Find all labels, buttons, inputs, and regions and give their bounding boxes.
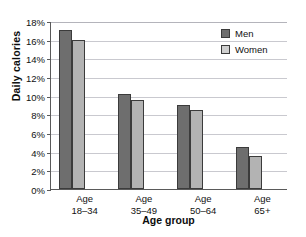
legend-label: Men	[235, 28, 253, 39]
y-axis-tick-label: 14%	[26, 54, 45, 65]
legend-label: Women	[235, 44, 268, 55]
bar-women-4	[249, 156, 262, 189]
x-axis-tick-label: Age18–34	[55, 193, 115, 216]
bar-men-2	[118, 94, 131, 189]
bar-group	[118, 22, 144, 189]
y-axis-tick-mark	[47, 190, 51, 191]
y-axis-tick-label: 0%	[31, 185, 45, 196]
bar-men-3	[177, 105, 190, 189]
y-axis-tick-label: 4%	[31, 147, 45, 158]
legend-swatch-icon	[221, 45, 230, 54]
y-axis-tick-label: 10%	[26, 91, 45, 102]
y-axis-tick-label: 12%	[26, 73, 45, 84]
x-axis-tick-label: Age35–49	[114, 193, 174, 216]
legend: MenWomen	[221, 26, 268, 58]
bar-women-3	[190, 110, 203, 189]
y-axis-tick-label: 16%	[26, 35, 45, 46]
y-axis-tick-label: 2%	[31, 166, 45, 177]
y-axis-title: Daily calories	[10, 6, 22, 126]
y-axis-tick-label: 8%	[31, 110, 45, 121]
bar-group	[177, 22, 203, 189]
cut-off-text-artifact	[0, 0, 306, 9]
legend-item-men[interactable]: Men	[221, 26, 268, 40]
bar-men-4	[236, 147, 249, 189]
bar-women-1	[72, 40, 85, 189]
bar-women-2	[131, 100, 144, 189]
y-axis-tick-label: 18%	[26, 17, 45, 28]
legend-item-women[interactable]: Women	[221, 42, 268, 56]
x-axis-tick-label: Age50–64	[173, 193, 233, 216]
bar-men-1	[59, 30, 72, 189]
bar-chart: Daily calories 0%2%4%6%8%10%12%14%16%18%…	[0, 0, 306, 237]
y-axis-tick-label: 6%	[31, 129, 45, 140]
bar-group	[59, 22, 85, 189]
x-axis-tick-label: Age65+	[232, 193, 292, 216]
legend-swatch-icon	[221, 29, 230, 38]
x-axis-title: Age group	[50, 214, 287, 226]
